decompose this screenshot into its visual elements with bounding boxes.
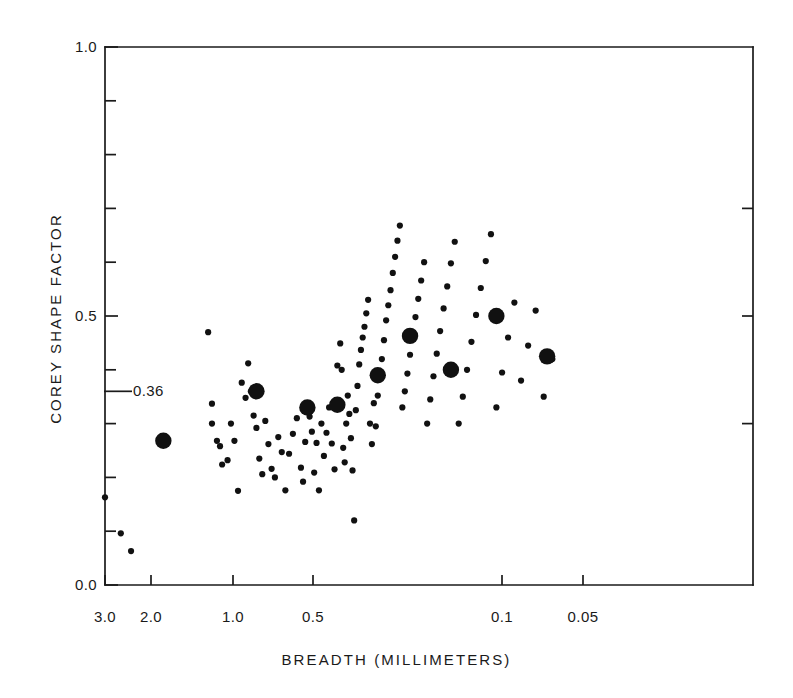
x-tick-label: 0.05 bbox=[548, 608, 618, 625]
x-tick-label: 2.0 bbox=[116, 608, 186, 625]
series-individual-grains bbox=[102, 223, 556, 555]
y-tick-label: 0.5 bbox=[27, 307, 97, 324]
scatter-plot-figure: BREADTH (MILLIMETERS) COREY SHAPE FACTOR… bbox=[0, 0, 793, 698]
x-tick-label: 1.0 bbox=[198, 608, 268, 625]
annotation-mean-shape-factor: 0.36 bbox=[133, 382, 164, 399]
plot-canvas bbox=[0, 0, 793, 698]
y-tick-label: 0.0 bbox=[27, 576, 97, 593]
x-tick-label: 0.1 bbox=[467, 608, 537, 625]
tick-marks bbox=[105, 47, 753, 585]
x-tick-label: 0.5 bbox=[278, 608, 348, 625]
x-axis-title: BREADTH (MILLIMETERS) bbox=[0, 651, 793, 668]
axes-frame bbox=[105, 47, 753, 585]
y-tick-label: 1.0 bbox=[27, 38, 97, 55]
series-size-class-means bbox=[155, 308, 555, 449]
